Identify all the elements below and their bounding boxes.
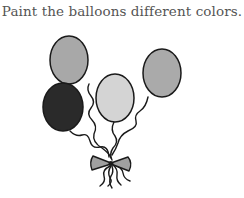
balloon-right[interactable] bbox=[143, 49, 181, 97]
balloons bbox=[43, 36, 181, 131]
balloon-illustration bbox=[0, 0, 244, 198]
balloon-left-dark[interactable] bbox=[43, 83, 83, 131]
balloon-middle-light[interactable] bbox=[96, 74, 134, 122]
balloon-top-left[interactable] bbox=[50, 36, 88, 84]
